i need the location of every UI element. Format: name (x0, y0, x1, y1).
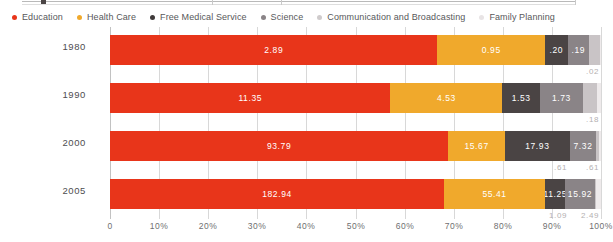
bar-segment-label: 55.41 (482, 190, 506, 199)
bar-segment[interactable]: 11.25 (545, 179, 565, 209)
x-axis-tick-label: 20% (199, 221, 218, 231)
overflow-value-label: 2.49 (581, 211, 599, 220)
x-axis-tick-label: 90% (543, 221, 562, 231)
bar-segment[interactable]: 7.32 (570, 131, 596, 161)
bar-segment[interactable]: 0.95 (437, 35, 545, 65)
chart-plot-area: 19802.890.95.20.19.02199011.354.531.531.… (0, 27, 613, 219)
bar-segment[interactable]: 2.89 (110, 35, 437, 65)
top-cutoff-artifact (0, 0, 613, 6)
bar-segment[interactable] (599, 131, 601, 161)
chart-row: 200093.7915.6717.937.32.61.61 (0, 123, 613, 171)
x-axis-tick-label: 30% (248, 221, 267, 231)
bar-segment[interactable]: .19 (568, 35, 590, 65)
legend-item-label: Health Care (87, 13, 136, 22)
bar-segment[interactable] (583, 83, 597, 113)
legend-swatch-icon (77, 15, 82, 20)
bar-segment[interactable]: 11.35 (110, 83, 390, 113)
bar-segment-label: 1.73 (552, 94, 571, 103)
legend-item-education[interactable]: Education (12, 13, 63, 22)
legend-item-label: Family Planning (489, 13, 555, 22)
bar-segment[interactable]: 4.53 (390, 83, 502, 113)
bar-segment[interactable]: 17.93 (505, 131, 570, 161)
legend-swatch-icon (12, 15, 17, 20)
bar-segment[interactable]: 93.79 (110, 131, 448, 161)
y-axis-label: 1980 (0, 41, 98, 52)
bar-segment[interactable]: 55.41 (444, 179, 545, 209)
legend-item-label: Free Medical Service (160, 13, 247, 22)
bar-segment[interactable]: 182.94 (110, 179, 444, 209)
artifact-marker (41, 0, 46, 4)
artifact-rule (22, 1, 575, 2)
bar-segment[interactable]: 1.73 (540, 83, 583, 113)
chart-row: 199011.354.531.531.73.18 (0, 75, 613, 123)
bar-segment-label: 15.67 (464, 142, 488, 151)
bar-segment-label: .19 (572, 46, 586, 55)
y-axis-label: 1990 (0, 89, 98, 100)
x-axis-tick-label: 0 (107, 221, 112, 231)
legend-item-label: Communication and Broadcasting (327, 13, 465, 22)
legend-swatch-icon (261, 15, 266, 20)
legend-item-label: Education (22, 13, 63, 22)
bar-segment[interactable]: .20 (545, 35, 568, 65)
chart-row: 19802.890.95.20.19.02 (0, 27, 613, 75)
legend-item-free-medical-service[interactable]: Free Medical Service (150, 13, 247, 22)
legend-item-science[interactable]: Science (261, 13, 304, 22)
bar-segment-label: 11.35 (238, 94, 262, 103)
x-axis-tick-label: 40% (297, 221, 316, 231)
legend-item-communication-and-broadcasting[interactable]: Communication and Broadcasting (317, 13, 465, 22)
bar-segment-label: .20 (549, 46, 563, 55)
stacked-bar[interactable]: 2.890.95.20.19 (110, 35, 601, 65)
bar-segment-label: 17.93 (525, 142, 549, 151)
bar-segment-label: 2.89 (264, 46, 283, 55)
bar-segment[interactable]: 15.67 (448, 131, 505, 161)
overflow-value-label: 1.09 (549, 211, 567, 220)
artifact-tick (575, 0, 576, 5)
stacked-bar[interactable]: 11.354.531.531.73 (110, 83, 601, 113)
bar-segment[interactable] (589, 35, 600, 65)
y-axis-label: 2005 (0, 185, 98, 196)
bar-segment-label: 15.92 (568, 190, 592, 199)
stacked-bar[interactable]: 93.7915.6717.937.32 (110, 131, 601, 161)
legend-item-family-planning[interactable]: Family Planning (479, 13, 555, 22)
artifact-rule-secondary (22, 4, 575, 5)
x-axis-tick-label: 70% (445, 221, 464, 231)
bar-segment[interactable]: 1.53 (502, 83, 540, 113)
artifact-tick (281, 0, 282, 5)
x-axis-tick-label: 10% (150, 221, 169, 231)
bar-segment[interactable]: 15.92 (565, 179, 594, 209)
legend-item-label: Science (271, 13, 304, 22)
bar-segment[interactable] (597, 83, 601, 113)
legend-swatch-icon (479, 15, 484, 20)
x-axis-tick-label: 60% (396, 221, 415, 231)
bar-segment-label: 0.95 (482, 46, 501, 55)
bar-segment[interactable] (596, 179, 601, 209)
x-axis-tick-label: 100% (589, 221, 613, 231)
bar-segment-label: 182.94 (262, 190, 292, 199)
chart-legend: EducationHealth CareFree Medical Service… (0, 9, 613, 25)
bar-segment-label: 93.79 (267, 142, 291, 151)
legend-swatch-icon (150, 15, 155, 20)
y-axis-label: 2000 (0, 137, 98, 148)
x-axis-tick-label: 50% (347, 221, 366, 231)
x-axis-tick-label: 80% (494, 221, 513, 231)
x-axis: 010%20%30%40%50%60%70%80%90%100% (0, 221, 613, 235)
bar-segment-label: 4.53 (437, 94, 456, 103)
legend-item-health-care[interactable]: Health Care (77, 13, 136, 22)
chart-row: 2005182.9455.4111.2515.921.092.49 (0, 171, 613, 219)
stacked-bar[interactable]: 182.9455.4111.2515.92 (110, 179, 601, 209)
legend-swatch-icon (317, 15, 322, 20)
bar-segment-label: 7.32 (574, 142, 593, 151)
bar-segment-label: 1.53 (512, 94, 531, 103)
bar-segment-label: 11.25 (545, 190, 565, 199)
artifact-tick (212, 0, 213, 5)
